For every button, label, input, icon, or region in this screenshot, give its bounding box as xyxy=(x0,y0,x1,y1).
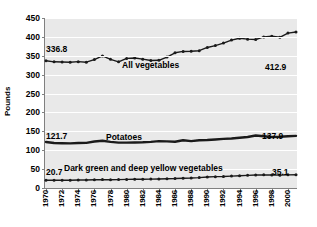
series-marker xyxy=(206,46,209,49)
y-tick-label: 300 xyxy=(26,70,40,80)
gridline xyxy=(45,37,297,38)
end-value-label-1: 412.9 xyxy=(265,62,286,72)
y-tick-mark xyxy=(42,188,45,189)
x-tick-label: 1972 xyxy=(57,190,66,207)
y-tick-label: 100 xyxy=(26,145,40,155)
y-tick-label: 450 xyxy=(26,13,40,23)
gridline xyxy=(45,18,297,19)
y-tick-mark xyxy=(42,112,45,113)
series-marker xyxy=(69,61,72,64)
series-marker xyxy=(198,176,201,179)
series-marker xyxy=(222,175,225,178)
series-marker xyxy=(117,178,120,181)
series-marker xyxy=(295,173,298,176)
series-marker xyxy=(149,178,152,181)
x-tick-label: 1974 xyxy=(73,190,82,207)
series-marker xyxy=(246,174,249,177)
series-marker xyxy=(165,177,168,180)
gridline xyxy=(45,56,297,57)
x-tick-label: 1988 xyxy=(186,190,195,207)
series-marker xyxy=(254,38,257,41)
series-marker xyxy=(45,59,48,62)
series-marker xyxy=(262,173,265,176)
series-marker xyxy=(254,173,257,176)
y-tick-mark xyxy=(42,75,45,76)
series-marker xyxy=(77,179,80,182)
series-label-2: Potatoes xyxy=(106,132,142,142)
start-value-label-3: 20.7 xyxy=(46,167,63,177)
series-marker xyxy=(174,177,177,180)
series-marker xyxy=(53,179,56,182)
gridline xyxy=(45,94,297,95)
x-tick-label: 1996 xyxy=(251,190,260,207)
y-tick-label: 50 xyxy=(31,164,40,174)
y-tick-mark xyxy=(42,131,45,132)
y-tick-label: 150 xyxy=(26,126,40,136)
start-value-label-2: 121.7 xyxy=(46,131,67,141)
series-line xyxy=(46,135,296,143)
series-marker xyxy=(77,60,80,63)
series-marker xyxy=(93,58,96,61)
series-marker xyxy=(182,177,185,180)
y-tick-label: 0 xyxy=(35,183,40,193)
x-tick-label: 1994 xyxy=(235,190,244,207)
series-marker xyxy=(182,50,185,53)
y-tick-mark xyxy=(42,94,45,95)
series-marker xyxy=(174,51,177,54)
y-tick-label: 200 xyxy=(26,107,40,117)
series-label-3: Dark green and deep yellow vegetables xyxy=(64,163,223,173)
x-tick-label: 1984 xyxy=(154,190,163,207)
series-marker xyxy=(141,178,144,181)
gridline xyxy=(45,112,297,113)
series-marker xyxy=(222,42,225,45)
y-tick-label: 250 xyxy=(26,89,40,99)
series-marker xyxy=(206,176,209,179)
series-marker xyxy=(198,49,201,52)
series-marker xyxy=(45,179,48,182)
x-tick-label: 1970 xyxy=(41,190,50,207)
x-tick-label: 1986 xyxy=(170,190,179,207)
end-value-label-3: 35.1 xyxy=(272,167,289,177)
end-value-label-2: 137.9 xyxy=(262,131,283,141)
y-axis-title: Pounds xyxy=(1,66,15,136)
series-marker xyxy=(85,61,88,64)
series-marker xyxy=(85,178,88,181)
x-tick-label: 1980 xyxy=(122,190,131,207)
x-tick-label: 1992 xyxy=(218,190,227,207)
x-axis-tick-labels: 1970197219741976197819801982198419861988… xyxy=(44,190,296,226)
gridline xyxy=(45,150,297,151)
series-marker xyxy=(109,178,112,181)
series-marker xyxy=(93,178,96,181)
y-tick-mark xyxy=(42,150,45,151)
x-tick-label: 1998 xyxy=(267,190,276,207)
y-tick-label: 350 xyxy=(26,51,40,61)
series-marker xyxy=(53,60,56,63)
y-tick-mark xyxy=(42,169,45,170)
series-marker xyxy=(214,175,217,178)
series-marker xyxy=(69,179,72,182)
series-marker xyxy=(190,50,193,53)
start-value-label-1: 336.8 xyxy=(46,44,67,54)
y-tick-label: 400 xyxy=(26,32,40,42)
y-tick-mark xyxy=(42,18,45,19)
series-marker xyxy=(230,175,233,178)
gridline xyxy=(45,131,297,132)
series-marker xyxy=(286,32,289,35)
gridline xyxy=(45,75,297,76)
series-marker xyxy=(238,174,241,177)
series-marker xyxy=(61,179,64,182)
series-marker xyxy=(125,178,128,181)
x-tick-label: 2000 xyxy=(283,190,292,207)
series-marker xyxy=(101,178,104,181)
series-label-1: All vegetables xyxy=(122,60,179,70)
y-axis-tick-labels: 050100150200250300350400450 xyxy=(14,18,42,188)
series-marker xyxy=(61,61,64,64)
x-tick-label: 1978 xyxy=(106,190,115,207)
series-marker xyxy=(246,38,249,41)
y-tick-mark xyxy=(42,56,45,57)
x-tick-label: 1982 xyxy=(138,190,147,207)
series-line xyxy=(46,175,296,181)
y-tick-mark xyxy=(42,37,45,38)
series-marker xyxy=(133,178,136,181)
x-tick-label: 1990 xyxy=(202,190,211,207)
